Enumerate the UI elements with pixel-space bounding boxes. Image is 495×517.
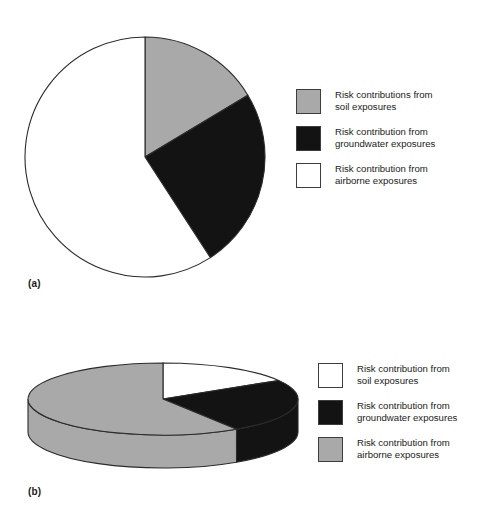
- pie-b-top-group: [28, 363, 298, 435]
- legend-panel-a: Risk contributions from soil exposures R…: [296, 88, 435, 199]
- legend-item: Risk contribution from airborne exposure…: [318, 436, 457, 462]
- legend-label-soil: Risk contribution from soil exposures: [357, 362, 450, 388]
- legend-item: Risk contribution from soil exposures: [318, 362, 457, 388]
- legend-label-groundwater: Risk contribution from groundwater expos…: [357, 399, 457, 425]
- panel-label-b: (b): [28, 486, 41, 497]
- legend-swatch-groundwater: [318, 400, 343, 425]
- legend-swatch-airborne: [296, 163, 321, 188]
- legend-label-soil: Risk contributions from soil exposures: [335, 88, 433, 114]
- legend-item: Risk contributions from soil exposures: [296, 88, 435, 114]
- legend-item: Risk contribution from groundwater expos…: [296, 125, 435, 151]
- legend-label-airborne: Risk contribution from airborne exposure…: [335, 162, 428, 188]
- legend-item: Risk contribution from airborne exposure…: [296, 162, 435, 188]
- pie-a-wedge-group: [25, 37, 265, 277]
- legend-label-groundwater: Risk contribution from groundwater expos…: [335, 125, 435, 151]
- legend-swatch-airborne: [318, 437, 343, 462]
- legend-swatch-soil: [318, 363, 343, 388]
- legend-swatch-soil: [296, 89, 321, 114]
- panel-label-a: (a): [28, 278, 41, 289]
- legend-swatch-groundwater: [296, 126, 321, 151]
- legend-panel-b: Risk contribution from soil exposures Ri…: [318, 362, 457, 473]
- legend-label-airborne: Risk contribution from airborne exposure…: [357, 436, 450, 462]
- legend-item: Risk contribution from groundwater expos…: [318, 399, 457, 425]
